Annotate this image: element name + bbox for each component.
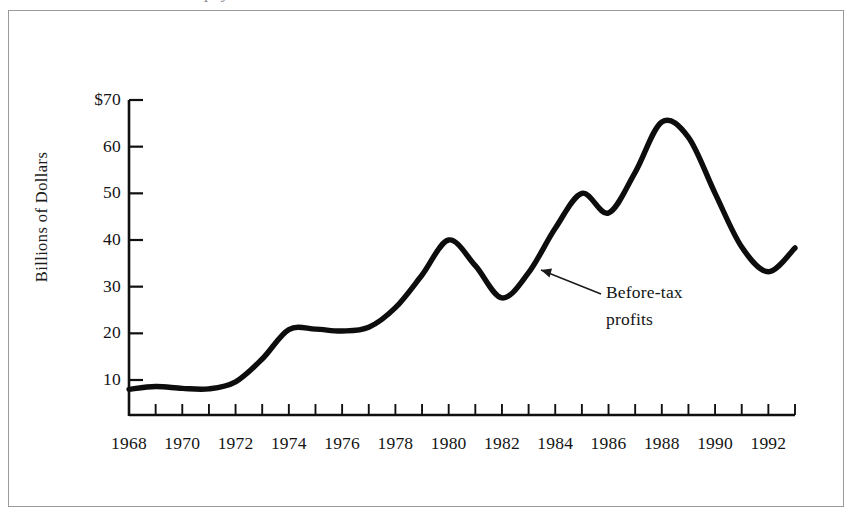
- data-series-group: [129, 120, 795, 389]
- annotation-arrow-head: [541, 269, 552, 278]
- annotation-line-1: Before-tax: [606, 279, 683, 306]
- annotation-label-before-tax: Before-tax profits: [606, 279, 683, 333]
- x-axis-ticks: [156, 404, 795, 415]
- clipped-caption-strip: p y: [0, 0, 867, 9]
- annotation-arrow: [541, 269, 601, 295]
- chart-plot-area: Billions of Dollars $70605040302010 1968…: [9, 11, 845, 508]
- clipped-caption-text: p y: [205, 0, 232, 3]
- chart-svg: [9, 11, 845, 508]
- figure-frame: Billions of Dollars $70605040302010 1968…: [8, 10, 844, 507]
- y-axis-ticks: [129, 100, 143, 380]
- annotation-line-2: profits: [606, 306, 683, 333]
- series-line-before-tax-profits: [129, 120, 795, 389]
